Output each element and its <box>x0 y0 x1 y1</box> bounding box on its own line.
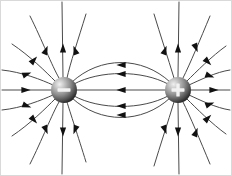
field-arrowhead <box>191 127 200 138</box>
field-line <box>154 14 174 78</box>
positive-charge <box>165 77 191 103</box>
field-arrowhead <box>161 125 170 136</box>
negative-charge <box>51 77 77 103</box>
field-arrowhead <box>191 43 200 54</box>
field-line <box>62 2 63 77</box>
field-line <box>30 16 59 78</box>
field-line <box>30 102 59 164</box>
field-arrowhead <box>22 70 33 79</box>
field-arrowhead <box>71 125 80 136</box>
field-arrowhead <box>116 103 125 109</box>
field-line <box>178 103 179 174</box>
field-arrowhead <box>41 45 50 56</box>
field-line <box>67 102 86 162</box>
field-arrowhead <box>29 115 40 126</box>
field-arrowhead <box>29 55 40 66</box>
field-arrowhead <box>116 87 125 93</box>
field-arrowhead <box>116 71 125 77</box>
field-arrowhead <box>60 127 66 136</box>
field-arrowhead <box>175 43 181 52</box>
field-lines-group <box>2 2 230 174</box>
field-arrowhead <box>22 102 33 111</box>
field-arrowhead <box>60 43 66 52</box>
field-arrowhead <box>205 72 216 81</box>
field-arrowhead <box>175 127 181 136</box>
field-arrowhead <box>209 87 218 93</box>
field-arrowhead <box>21 87 30 93</box>
field-line <box>154 102 174 166</box>
field-line <box>62 103 63 174</box>
field-arrowhead <box>203 113 214 124</box>
field-line <box>189 70 230 85</box>
field-arrowhead <box>161 45 170 56</box>
field-line <box>178 2 179 77</box>
field-line <box>67 14 86 78</box>
field-arrowhead <box>41 125 50 136</box>
field-arrowhead <box>205 100 216 109</box>
field-arrowhead <box>71 45 80 56</box>
minus-sign-icon <box>58 88 71 91</box>
field-line <box>189 95 230 110</box>
electric-dipole-figure <box>0 0 232 176</box>
field-diagram-canvas <box>0 0 232 176</box>
field-arrowhead <box>203 57 214 68</box>
